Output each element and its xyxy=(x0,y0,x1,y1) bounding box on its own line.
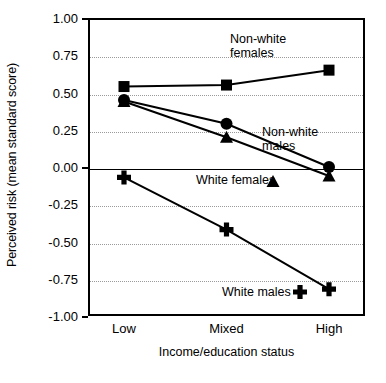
x-tick-label: Low xyxy=(84,321,164,336)
chart-figure: Perceived risk (mean standard score) 1.0… xyxy=(0,0,386,383)
annotation-white-females: White females xyxy=(196,174,275,188)
y-tick-label: -1.00 xyxy=(18,309,78,324)
gridline-layer xyxy=(90,20,363,314)
x-axis-title: Income/education status xyxy=(88,345,365,359)
annotation-non-white-females: Non-white females xyxy=(230,33,286,60)
zero-line xyxy=(90,169,363,170)
x-tick-label: Mixed xyxy=(187,321,267,336)
y-tick-mark xyxy=(82,316,88,318)
y-tick-label: -0.75 xyxy=(18,271,78,286)
annotation-non-white-males: Non-white males xyxy=(262,126,318,153)
gridline xyxy=(90,132,363,133)
y-tick-label: 0.50 xyxy=(18,85,78,100)
y-tick-label: 1.00 xyxy=(18,11,78,26)
y-tick-label: -0.50 xyxy=(18,234,78,249)
y-axis-title-text: Perceived risk (mean standard score) xyxy=(5,63,19,267)
y-tick-label: -0.25 xyxy=(18,197,78,212)
gridline xyxy=(90,281,363,282)
gridline xyxy=(90,95,363,96)
x-tick-label: High xyxy=(289,321,369,336)
annotation-white-males: White males xyxy=(222,286,291,300)
gridline xyxy=(90,57,363,58)
y-tick-label: 0.00 xyxy=(18,160,78,175)
y-tick-label: 0.75 xyxy=(18,48,78,63)
gridline xyxy=(90,206,363,207)
gridline xyxy=(90,244,363,245)
plot-area xyxy=(88,18,365,316)
y-tick-label: 0.25 xyxy=(18,122,78,137)
